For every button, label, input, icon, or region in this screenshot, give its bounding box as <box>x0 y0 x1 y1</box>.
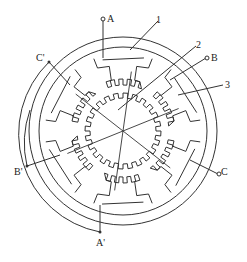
lead-b <box>170 58 206 80</box>
coil-line-0 <box>103 58 144 60</box>
leader-rotor <box>118 46 196 110</box>
coil-line-2 <box>176 149 195 186</box>
coil-line-1 <box>174 78 196 113</box>
stator-pole-0 <box>94 59 152 89</box>
stator-pole-2 <box>150 140 200 193</box>
terminal-a <box>101 17 105 21</box>
terminal-label-b: B <box>211 53 218 63</box>
motor-cross-section <box>0 0 247 262</box>
lead-c-prime <box>49 62 70 85</box>
lead-c <box>190 160 218 174</box>
part-label-winding: 3 <box>225 80 230 90</box>
terminal-label-c: C <box>221 167 228 177</box>
terminal-label-c-prime: C' <box>36 53 44 63</box>
stator-pole-4 <box>46 136 93 193</box>
stator-pole-3 <box>94 173 152 203</box>
terminal-label-a-prime: A' <box>96 238 105 248</box>
coil-line-4 <box>49 149 71 184</box>
leader-winding <box>178 85 223 95</box>
part-label-rotor: 2 <box>196 40 201 50</box>
terminal-b <box>205 56 209 60</box>
motor-diagram: A C' B B' C A' 1 2 3 <box>0 0 247 262</box>
stator-pole-5 <box>46 70 96 123</box>
stator-pole-1 <box>153 70 200 127</box>
coil-line-3 <box>102 202 143 204</box>
leader-stator <box>130 21 158 50</box>
part-label-stator: 1 <box>156 15 161 25</box>
terminal-label-b-prime: B' <box>14 167 22 177</box>
terminal-label-a: A <box>107 14 114 24</box>
